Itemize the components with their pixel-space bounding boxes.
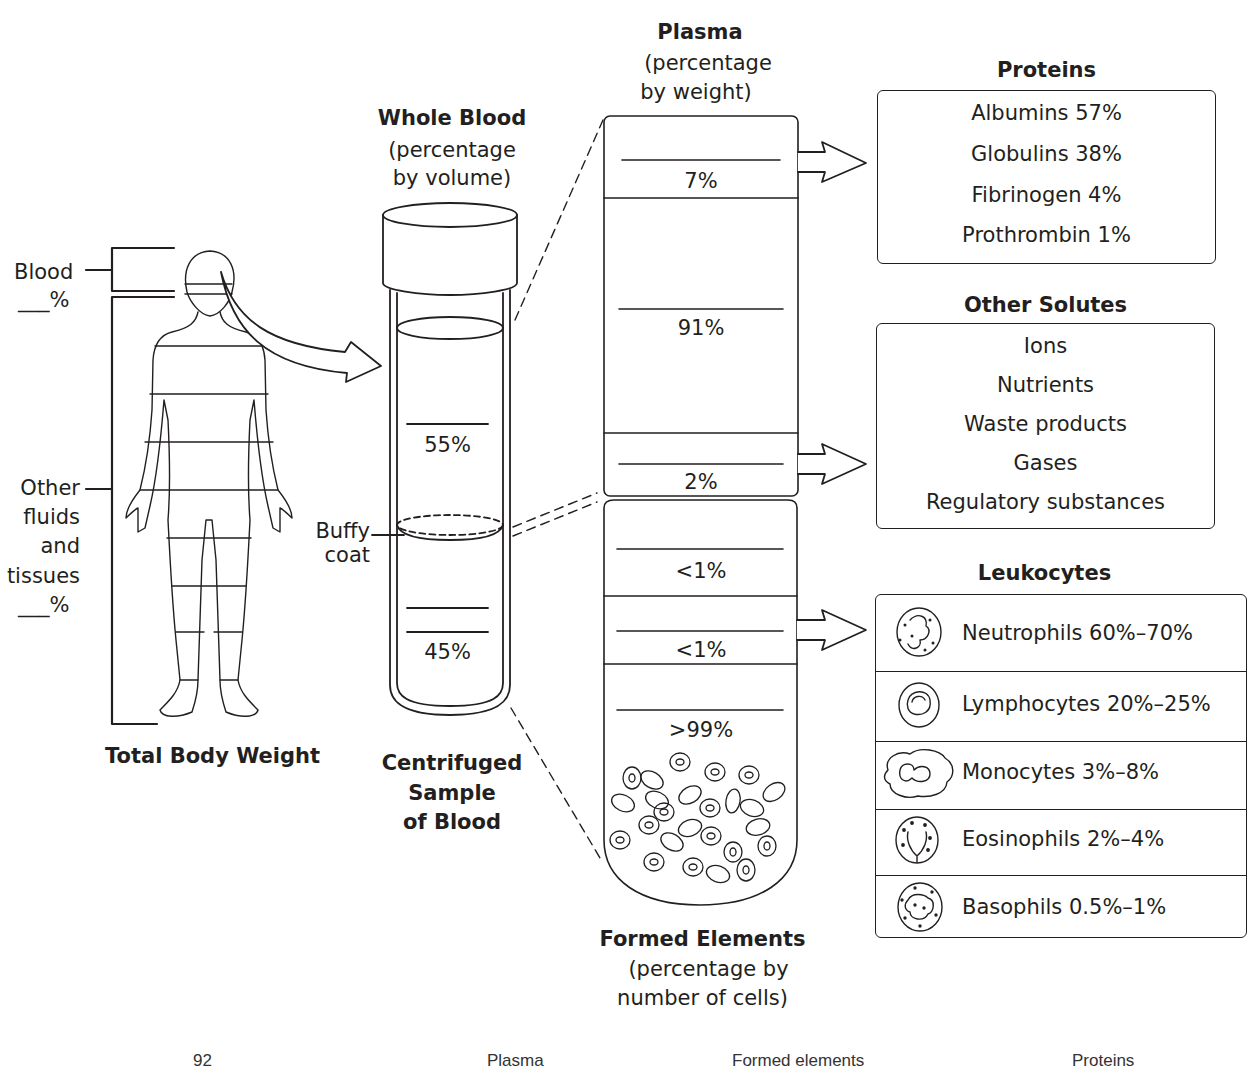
leukocyte-item-lymphocytes: Lymphocytes 20%–25% — [962, 694, 1211, 715]
centrifuged-caption-3: of Blood — [352, 812, 552, 833]
whole-blood-subtitle-1: (percentage — [352, 140, 552, 161]
erythrocytes-percent: >99% — [604, 720, 798, 741]
total-body-weight-title: Total Body Weight — [105, 746, 320, 767]
proteins-title: Proteins — [877, 60, 1216, 81]
solute-item-regulatory-substances: Regulatory substances — [876, 492, 1215, 513]
whole-blood-subtitle-2: by volume) — [352, 168, 552, 189]
arrow-to-other-solutes — [798, 444, 866, 484]
protein-item-fibrinogen: Fibrinogen 4% — [877, 185, 1216, 206]
formed-elements-subtitle-2: number of cells) — [590, 988, 815, 1009]
leukocyte-item-neutrophils: Neutrophils 60%–70% — [962, 623, 1193, 644]
footer-term-plasma: Plasma — [487, 1051, 544, 1071]
other-fluids-line-2: fluids — [0, 507, 80, 528]
leukocyte-item-basophils: Basophils 0.5%–1% — [962, 897, 1166, 918]
leukocytes-percent: <1% — [604, 640, 798, 661]
formed-elements-subtitle-1: (percentage by — [596, 959, 821, 980]
solute-item-gases: Gases — [876, 453, 1215, 474]
other-solutes-title: Other Solutes — [876, 295, 1215, 316]
body-brackets — [86, 248, 174, 724]
solute-item-nutrients: Nutrients — [876, 375, 1215, 396]
blood-label: Blood — [14, 262, 73, 283]
centrifuged-caption-1: Centrifuged — [352, 753, 552, 774]
protein-item-prothrombin: Prothrombin 1% — [877, 225, 1216, 246]
other-fluids-percent-blank: ___% — [18, 595, 69, 616]
protein-item-globulins: Globulins 38% — [877, 144, 1216, 165]
blood-percent-blank: ___% — [18, 290, 69, 311]
buffy-coat-label-1: Buffy — [300, 521, 370, 542]
protein-item-albumins: Albumins 57% — [877, 103, 1216, 124]
plasma-title: Plasma — [610, 22, 790, 43]
centrifuged-caption-2: Sample — [352, 783, 552, 804]
plasma-volume-percent: 55% — [400, 435, 495, 456]
other-fluids-line-1: Other — [0, 478, 80, 499]
leukocytes-title: Leukocytes — [875, 563, 1214, 584]
arrow-to-leukocytes — [797, 610, 866, 650]
block-arrows — [797, 142, 866, 650]
human-figure — [126, 251, 292, 716]
buffy-coat-label-2: coat — [300, 545, 370, 566]
blood-composition-diagram: Blood ___% Other fluids and tissues ___%… — [0, 0, 1253, 1078]
formed-elements-title: Formed Elements — [590, 929, 815, 950]
footer-page-number: 92 — [193, 1051, 212, 1071]
plasma-subtitle-2: by weight) — [606, 82, 786, 103]
dashed-connectors — [511, 120, 603, 858]
whole-blood-title: Whole Blood — [352, 108, 552, 129]
plasma-other-solutes-percent: 2% — [604, 472, 798, 493]
head-to-tube-arrow — [221, 272, 381, 382]
plasma-water-percent: 91% — [604, 318, 798, 339]
arrow-to-proteins — [798, 142, 866, 182]
footer-term-proteins: Proteins — [1072, 1051, 1134, 1071]
solute-item-ions: Ions — [876, 336, 1215, 357]
other-fluids-line-4: tissues — [0, 566, 80, 587]
formed-volume-percent: 45% — [400, 642, 495, 663]
test-tube — [372, 203, 517, 715]
leukocyte-item-monocytes: Monocytes 3%–8% — [962, 762, 1159, 783]
footer-term-formed-elements: Formed elements — [732, 1051, 864, 1071]
other-fluids-line-3: and — [0, 536, 80, 557]
plasma-proteins-percent: 7% — [604, 171, 798, 192]
solute-item-waste-products: Waste products — [876, 414, 1215, 435]
platelets-percent: <1% — [604, 561, 798, 582]
erythrocytes-illustration — [609, 753, 789, 886]
leukocyte-item-eosinophils: Eosinophils 2%–4% — [962, 829, 1164, 850]
plasma-subtitle-1: (percentage — [618, 53, 798, 74]
